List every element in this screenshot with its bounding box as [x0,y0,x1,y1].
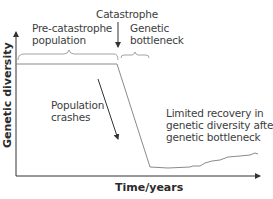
x-axis-label: Time/years [115,181,183,194]
population-crashes-line2: crashes [51,111,104,123]
limited-recovery-label: Limited recovery in genetic diversity af… [166,107,273,143]
population-crashes-line1: Population [51,99,104,111]
bottleneck-brace [121,52,149,58]
pre-catastrophe-line2: population [32,34,112,46]
pre-catastrophe-line1: Pre-catastrophe [32,22,112,34]
limited-recovery-line1: Limited recovery in [166,107,273,119]
limited-recovery-line3: genetic bottleneck [166,131,273,143]
pre-catastrophe-brace [18,50,118,60]
bottleneck-line1: Genetic [130,22,184,34]
catastrophe-label: Catastrophe [96,8,158,20]
limited-recovery-line2: genetic diversity after [166,119,273,131]
bottleneck-label: Genetic bottleneck [130,22,184,46]
y-axis-label: Genetic diversity [1,42,14,148]
pre-catastrophe-label: Pre-catastrophe population [32,22,112,46]
bottleneck-line2: bottleneck [130,34,184,46]
catastrophe-text: Catastrophe [96,8,158,20]
population-crashes-label: Population crashes [51,99,104,123]
